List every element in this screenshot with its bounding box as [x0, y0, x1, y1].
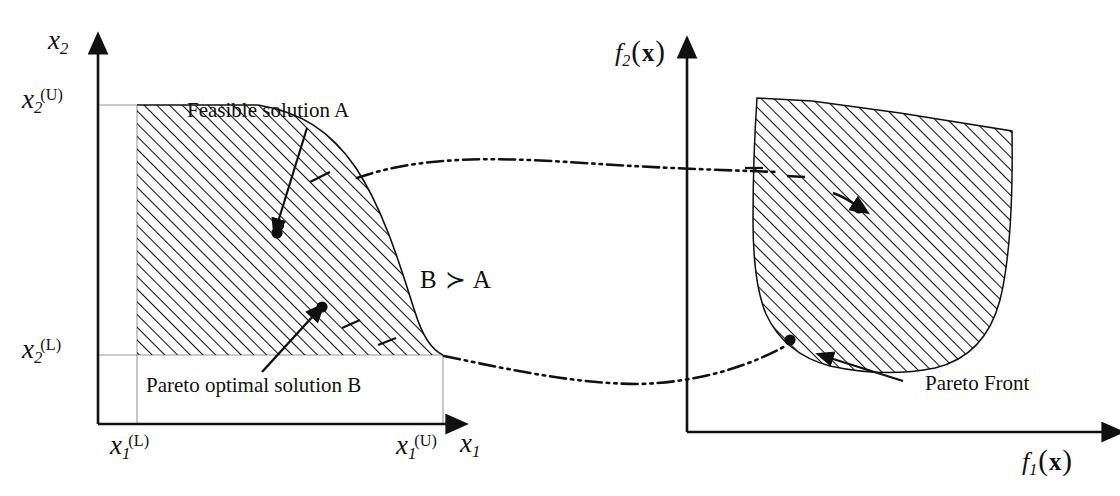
connector-upper [357, 159, 778, 178]
left-y-tick-upper: x2(U) [22, 86, 63, 116]
connector-lower [444, 345, 787, 384]
solution-point-b-objective [784, 334, 795, 345]
annotation-label-pareto-front: Pareto Front [925, 373, 1029, 394]
solution-point-b-decision [316, 301, 327, 312]
left-y-tick-lower: x2(L) [22, 336, 61, 366]
figure-root: x2 x1 x2(U) x2(L) x1(L) x1(U) Feasible s… [0, 0, 1120, 496]
feasible-region-decision-space [137, 105, 443, 355]
right-y-axis-label: f2(x) [615, 37, 666, 69]
dominance-relation-label: B ≻ A [420, 267, 492, 292]
annotation-label-pareto-optimal-solution-b: Pareto optimal solution B [146, 375, 361, 396]
objective-region [753, 98, 1012, 372]
diagram-canvas [0, 0, 1120, 496]
annotation-label-feasible-solution-a: Feasible solution A [187, 100, 349, 121]
left-x-tick-upper: x1(U) [396, 432, 437, 462]
left-x-tick-lower: x1(L) [110, 432, 149, 462]
left-x-axis-label: x1 [460, 430, 480, 460]
left-y-axis-label: x2 [48, 27, 68, 57]
right-x-axis-label: f1(x) [1022, 446, 1073, 478]
